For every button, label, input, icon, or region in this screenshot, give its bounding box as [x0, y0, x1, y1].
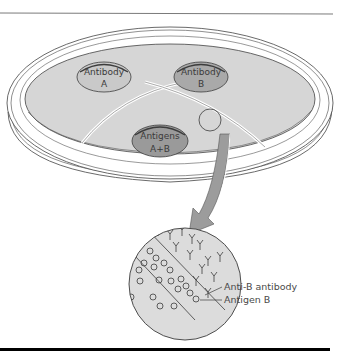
label-anti-b-antibody: Anti-B antibody	[224, 281, 298, 292]
well-b-label-1: Antibody	[181, 67, 222, 77]
well-ab-label-2: A+B	[150, 144, 170, 154]
top-rule	[0, 13, 333, 14]
well-a-label-2: A	[101, 79, 108, 89]
diagram-canvas: Antibody A Antibody B Antigens A+B	[0, 0, 339, 352]
well-antibody-b: Antibody B	[174, 62, 228, 92]
inset-magnified-view	[120, 222, 241, 340]
well-antibody-a: Antibody A	[77, 62, 131, 92]
label-antigen-b: Antigen B	[224, 294, 270, 305]
well-ab-label-1: Antigens	[140, 131, 180, 141]
petri-dish	[7, 27, 333, 182]
bottom-rule	[0, 348, 330, 351]
well-b-label-2: B	[198, 79, 204, 89]
well-antigens-ab: Antigens A+B	[132, 125, 188, 157]
well-a-label-1: Antibody	[84, 67, 125, 77]
